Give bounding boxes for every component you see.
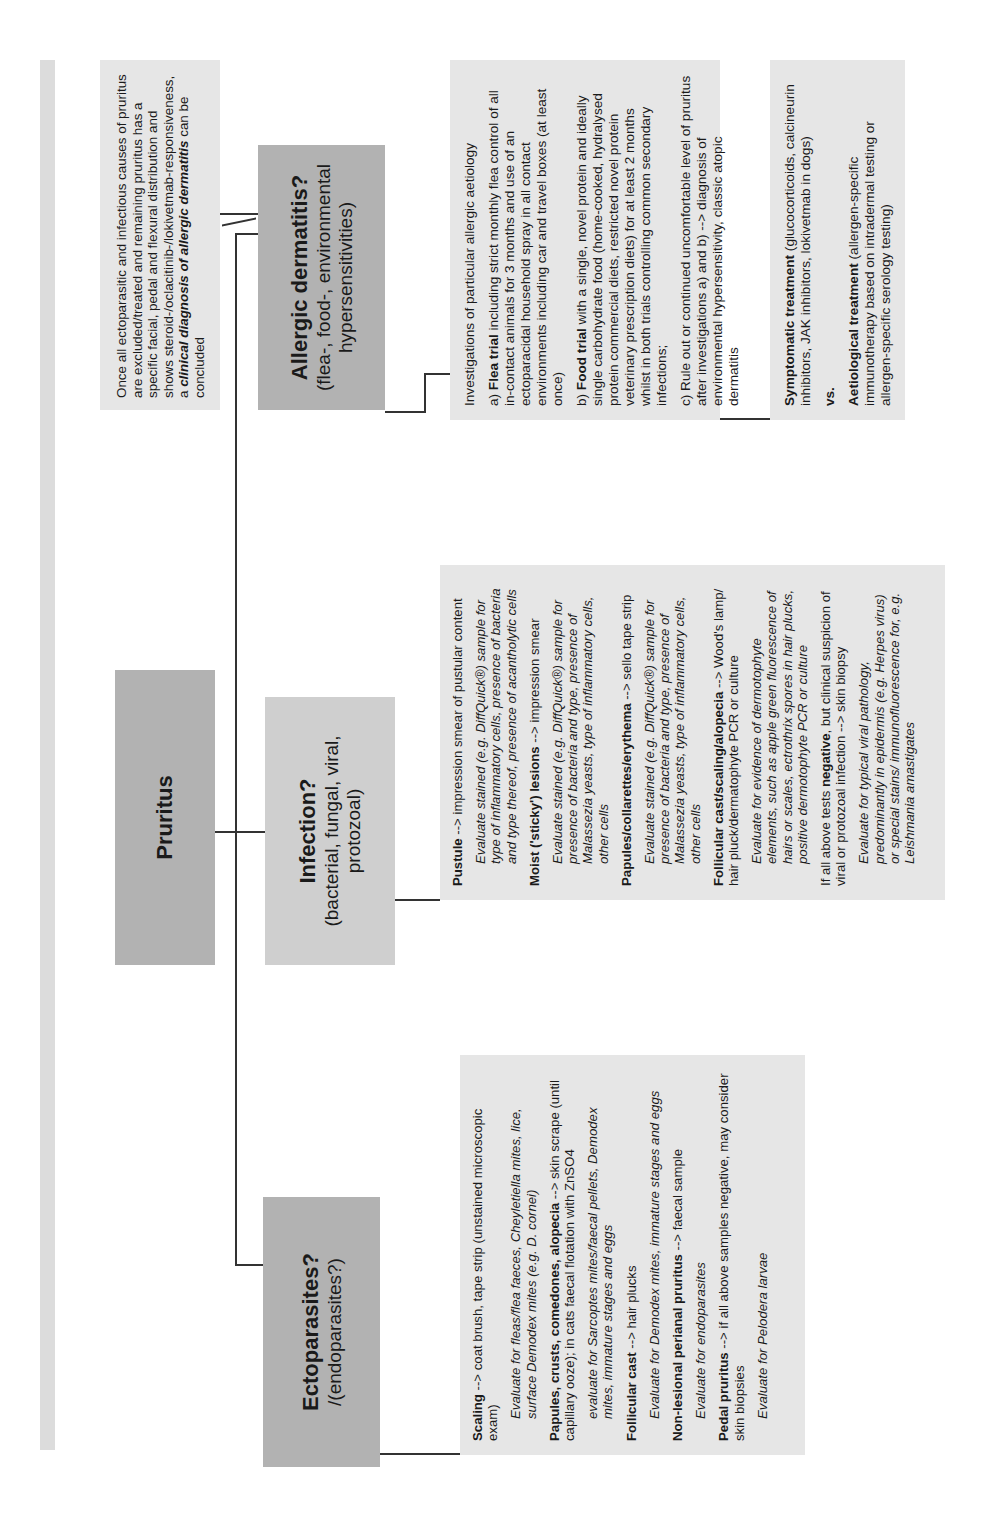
item-note: Evaluate for endoparasites [693, 1069, 708, 1441]
item-label: Follicular cast [624, 1352, 639, 1441]
item-note: Evaluate stained (e.g. DiffQuick®) sampl… [642, 579, 703, 886]
conclusion-link-1 [220, 213, 258, 215]
item-label: Moist ('sticky') lesions [527, 746, 542, 886]
treatment-box: Symptomatic treatment (glucocorticoids, … [770, 60, 905, 420]
symptomatic-label: Symptomatic treatment [782, 255, 797, 406]
ecto-detail-stem [418, 1453, 460, 1455]
root-to-infection [215, 831, 265, 833]
ectoparasites-node: Ectoparasites? /(endoparasites?) [263, 1197, 380, 1467]
ecto-to-detail-v [380, 1453, 420, 1455]
pruritus-title: Pruritus [152, 775, 178, 859]
item-label: Papules, crusts, comedones, alopecia [547, 1203, 562, 1441]
item-label: Follicular cast/scaling/alopecia [711, 692, 726, 886]
infection-link-h [395, 899, 440, 901]
allergic-subtitle: (flea-, food-, environmental hypersensit… [313, 155, 357, 400]
infection-detail-box: Pustule --> impression smear of pustular… [440, 565, 945, 900]
item-note: Evaluate stained (e.g. DiffQuick®) sampl… [473, 579, 519, 886]
ecto-drop [235, 1264, 263, 1266]
item-text: --> faecal sample [670, 1149, 685, 1254]
ectoparasites-detail-box: Scaling --> coat brush, tape strip (unst… [460, 1055, 805, 1455]
item-text: --> impression smear of pustular content [450, 598, 465, 838]
allergic-to-detail-h [424, 373, 426, 413]
allergic-detail-box: Investigations of particular allergic ae… [450, 60, 720, 420]
side-bar [40, 60, 55, 1450]
item-note: evaluate for Sarcoptes mites/faecal pell… [585, 1069, 615, 1441]
flea-trial-label: Flea trial [486, 334, 501, 390]
allergic-intro: Investigations of particular allergic ae… [462, 74, 478, 406]
conclusion-link-2 [222, 217, 256, 226]
item-note: Evaluate for fleas/flea faeces, Cheyleti… [508, 1069, 538, 1441]
item-text: --> sello tape strip [619, 595, 634, 704]
item-note: Evaluate for Demodex mites, immature sta… [647, 1069, 662, 1441]
item-label: negative [818, 734, 833, 788]
item-label: Scaling [470, 1394, 485, 1441]
pruritus-node: Pruritus [115, 670, 215, 965]
infection-subtitle: (bacterial, fungal, viral, protozoal) [321, 727, 365, 935]
rule-out-text: c) Rule out or continued uncomfortable l… [678, 74, 742, 406]
item-note: Evaluate stained (e.g. DiffQuick®) sampl… [550, 579, 611, 886]
aetiological-label: Aetiological treatment [846, 263, 861, 406]
food-trial-label: Food trial [574, 328, 589, 390]
item-text: --> coat brush, tape strip (unstained mi… [470, 1109, 500, 1441]
allergic-detail-stem [424, 373, 450, 375]
item-text: --> hair plucks [624, 1265, 639, 1352]
conclusion-box: Once all ectoparasitic and infectious ca… [100, 60, 220, 410]
item-note: Evaluate for Pelodera larvae [755, 1069, 770, 1441]
allergic-to-detail-v [385, 411, 425, 413]
allergic-title: Allergic dermatitis? [287, 175, 313, 380]
versus-label: vs. [822, 387, 837, 406]
item-label: Non-lesional perianal pruritus [670, 1254, 685, 1441]
item-note: Evaluate for evidence of dermotophyte el… [749, 579, 810, 886]
item-label: Pustule [450, 838, 465, 886]
item-text: --> impression smear [527, 618, 542, 746]
ectoparasites-subtitle: /(endoparasites?) [324, 1258, 346, 1406]
allergic-node: Allergic dermatitis? (flea-, food-, envi… [258, 145, 385, 410]
pruritus-flowchart: Pruritus Once all ectoparasitic and infe… [0, 0, 994, 1513]
item-prefix: a) [486, 390, 501, 406]
treatment-stem-a [720, 418, 770, 420]
allergic-drop [235, 233, 258, 235]
infection-node: Infection? (bacterial, fungal, viral, pr… [265, 697, 395, 965]
conclusion-emphasis: clinical diagnosis of allergic dermatiti… [176, 141, 191, 387]
spine-line [235, 233, 237, 1266]
item-label: Papules/collarettes/erythema [619, 703, 634, 886]
ectoparasites-title: Ectoparasites? [298, 1253, 324, 1411]
item-label: Pedal pruritus [716, 1352, 731, 1441]
item-note: Evaluate for typical viral pathology, pr… [856, 579, 917, 886]
infection-title: Infection? [295, 778, 321, 883]
item-prefix: b) [574, 390, 589, 406]
item-prefix: If all above tests [818, 787, 833, 886]
